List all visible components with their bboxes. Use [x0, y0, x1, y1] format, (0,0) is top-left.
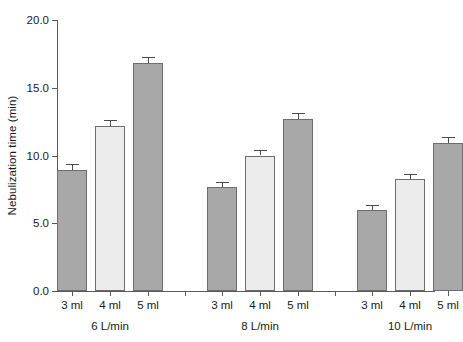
x-tick-mark: [222, 291, 223, 296]
error-bar-cap: [142, 57, 155, 58]
y-tick-mark: [52, 88, 57, 89]
x-tick-mark: [448, 291, 449, 296]
error-bar-stem: [148, 57, 149, 64]
x-tick-mark: [410, 291, 411, 296]
x-tick-mark: [148, 291, 149, 296]
x-tick-label: 3 ml: [361, 299, 383, 311]
x-tick-label: 3 ml: [61, 299, 83, 311]
error-bar-cap: [216, 182, 229, 183]
x-tick-label: 3 ml: [211, 299, 233, 311]
error-bar-cap: [404, 174, 417, 175]
x-tick-mark: [372, 291, 373, 296]
x-tick-mark: [72, 291, 73, 296]
x-tick-label: 5 ml: [287, 299, 309, 311]
x-tick-label: 5 ml: [137, 299, 159, 311]
group-label: 6 L/min: [91, 320, 129, 332]
y-tick-label: 20.0: [27, 14, 49, 26]
y-tick-mark: [52, 20, 57, 21]
x-tick-label: 4 ml: [399, 299, 421, 311]
x-group-separator-tick: [185, 291, 186, 296]
y-tick-label: 15.0: [27, 82, 49, 94]
x-tick-label: 4 ml: [249, 299, 271, 311]
error-bar-cap: [366, 205, 379, 206]
bar: [57, 170, 87, 291]
y-axis-title: Nebulization time (min): [2, 20, 22, 291]
x-tick-label: 4 ml: [99, 299, 121, 311]
error-bar-cap: [254, 150, 267, 151]
bar: [95, 126, 125, 291]
group-label: 10 L/min: [388, 320, 432, 332]
x-axis-line: [57, 291, 435, 292]
bar: [133, 63, 163, 291]
y-tick-label: 5.0: [33, 217, 49, 229]
x-tick-mark: [260, 291, 261, 296]
error-bar-cap: [442, 137, 455, 138]
x-group-separator-tick: [335, 291, 336, 296]
y-tick-label: 0.0: [33, 285, 49, 297]
y-tick-mark: [52, 156, 57, 157]
bar: [433, 143, 463, 291]
error-bar-cap: [104, 120, 117, 121]
error-bar-cap: [66, 164, 79, 165]
bar: [245, 156, 275, 292]
x-tick-label: 5 ml: [437, 299, 459, 311]
bar: [207, 187, 237, 291]
x-tick-mark: [298, 291, 299, 296]
group-label: 8 L/min: [241, 320, 279, 332]
y-tick-label: 10.0: [27, 150, 49, 162]
bar: [283, 119, 313, 291]
plot-area: 0.05.010.015.020.0 3 ml4 ml5 ml3 ml4 ml5…: [57, 20, 435, 291]
bar: [357, 210, 387, 291]
bar: [395, 179, 425, 291]
error-bar-cap: [292, 113, 305, 114]
x-tick-mark: [110, 291, 111, 296]
y-tick-mark: [52, 291, 57, 292]
